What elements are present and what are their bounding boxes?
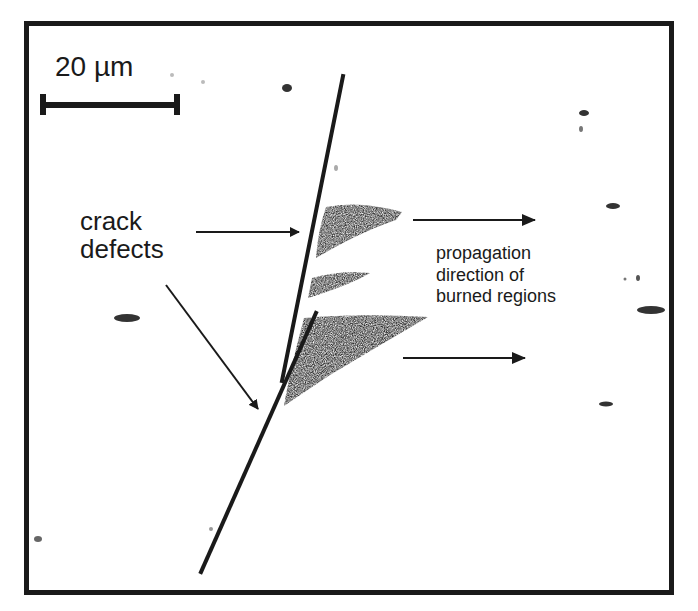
propagation-direction-label: propagation direction of burned regions — [436, 243, 556, 308]
scale-bar-label: 20 µm — [55, 52, 133, 82]
micrograph-figure — [0, 0, 698, 611]
crack-defects-label: crack defects — [80, 207, 164, 263]
image-frame — [27, 24, 672, 593]
